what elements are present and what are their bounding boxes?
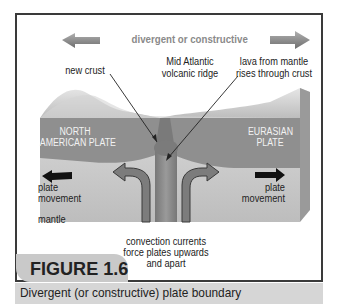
arrow-left-icon (62, 33, 100, 48)
diagram-heading: divergent or constructive (132, 34, 229, 45)
label-ridge-line1: Mid Atlantic (159, 56, 221, 67)
label-right-movement-line2: movement (238, 193, 285, 204)
label-na-plate-line1: NORTH (57, 126, 92, 137)
label-left-movement-line2: movement (38, 193, 82, 204)
label-na-plate-line2: AMERICAN PLATE (40, 137, 110, 148)
arrow-right-icon (270, 31, 310, 49)
figure-caption: Divergent (or constructive) plate bounda… (20, 285, 241, 300)
label-ridge-line2: volcanic ridge (155, 68, 225, 79)
label-new-crust: new crust (59, 65, 112, 76)
label-eu-plate-line2: PLATE (252, 137, 287, 148)
label-mantle: mantle (38, 214, 73, 225)
label-lava-line1: lava from mantle (237, 56, 311, 67)
label-eu-plate-line1: EURASIAN (248, 126, 292, 137)
label-lava-line2: rises through crust (235, 68, 312, 79)
figure-label: FIGURE 1.6 (30, 258, 128, 280)
label-convection-line3: and apart (140, 258, 193, 269)
